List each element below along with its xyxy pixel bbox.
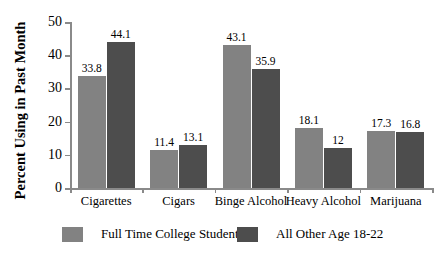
bar-value-label: 17.3 (371, 117, 391, 129)
x-tick (360, 188, 362, 193)
y-tick (65, 155, 70, 157)
bar-value-label: 18.1 (299, 114, 319, 126)
x-tick (70, 188, 72, 193)
y-axis-line (70, 22, 72, 189)
y-tick (65, 22, 70, 24)
y-tick-label: 10 (48, 147, 62, 163)
legend-label: Full Time College Student (101, 226, 239, 242)
bar-value-label: 16.8 (400, 118, 420, 130)
bar (396, 132, 424, 188)
category-label: Marijuana (370, 194, 421, 209)
legend-label: All Other Age 18-22 (276, 226, 383, 242)
y-tick-label: 0 (55, 180, 62, 196)
x-axis-line (70, 188, 432, 190)
bar (179, 145, 207, 188)
category-label: Cigars (162, 194, 195, 209)
plot-area: 01020304050 33.844.111.413.143.135.918.1… (70, 22, 432, 188)
bar (324, 148, 352, 188)
y-axis-title: Percent Using in Past Month (12, 16, 29, 206)
bar (367, 131, 395, 188)
y-tick (65, 122, 70, 124)
bar-value-label: 11.4 (154, 136, 174, 148)
legend-item[interactable]: Full Time College Student (62, 226, 239, 242)
y-tick-label: 50 (48, 14, 62, 30)
y-tick-label: 30 (48, 80, 62, 96)
bar-value-label: 33.8 (82, 62, 102, 74)
bar (150, 150, 178, 188)
bar-value-label: 43.1 (226, 31, 246, 43)
bar-value-label: 12 (332, 134, 344, 146)
y-tick (65, 55, 70, 57)
y-tick-label: 20 (48, 114, 62, 130)
category-label: Heavy Alcohol (286, 194, 361, 209)
legend-item[interactable]: All Other Age 18-22 (237, 226, 383, 242)
x-tick (142, 188, 144, 193)
bar-value-label: 44.1 (111, 28, 131, 40)
bar (252, 69, 280, 188)
bar (107, 42, 135, 188)
category-label: Binge Alcohol (215, 194, 288, 209)
category-label: Cigarettes (81, 194, 132, 209)
y-tick-label: 40 (48, 47, 62, 63)
bar-chart: Percent Using in Past Month 01020304050 … (0, 0, 440, 263)
bar (78, 76, 106, 188)
bar-value-label: 35.9 (255, 55, 275, 67)
x-tick (287, 188, 289, 193)
legend-swatch (237, 227, 258, 242)
chart-legend: Full Time College StudentAll Other Age 1… (0, 226, 440, 246)
legend-swatch (62, 227, 83, 242)
bar-value-label: 13.1 (183, 131, 203, 143)
bar (295, 128, 323, 188)
y-tick (65, 88, 70, 90)
bar (223, 45, 251, 188)
x-tick (215, 188, 217, 193)
x-tick (432, 188, 434, 193)
